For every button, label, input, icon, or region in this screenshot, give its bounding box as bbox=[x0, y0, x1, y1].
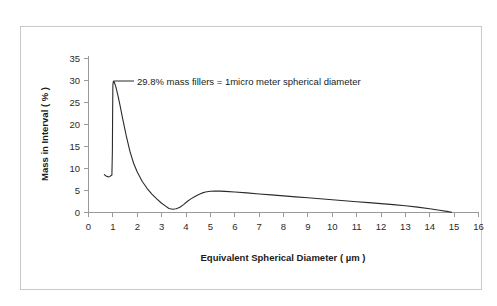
y-tick-label: 10 bbox=[69, 163, 80, 174]
y-axis-title: Mass in Interval ( % ) bbox=[39, 87, 50, 181]
y-axis-tick-labels: 0 5 10 15 20 25 30 35 bbox=[69, 53, 80, 218]
data-series-line bbox=[104, 81, 451, 212]
x-tick-label: 2 bbox=[135, 221, 140, 232]
x-tick-label: 10 bbox=[327, 221, 338, 232]
y-tick-label: 0 bbox=[75, 207, 80, 218]
x-tick-label: 12 bbox=[376, 221, 387, 232]
y-tick-label: 25 bbox=[69, 97, 80, 108]
x-axis-tick-labels: 0 1 2 3 4 5 6 7 8 9 10 11 12 13 14 15 16 bbox=[86, 221, 484, 232]
x-tick-label: 7 bbox=[256, 221, 261, 232]
y-tick-label: 5 bbox=[75, 185, 80, 196]
x-tick-label: 9 bbox=[305, 221, 310, 232]
y-tick-label: 35 bbox=[69, 53, 80, 64]
x-tick-label: 0 bbox=[86, 221, 91, 232]
x-tick-label: 6 bbox=[232, 221, 237, 232]
x-tick-label: 3 bbox=[159, 221, 164, 232]
x-tick-label: 11 bbox=[352, 221, 362, 232]
x-tick-label: 15 bbox=[449, 221, 460, 232]
y-tick-label: 20 bbox=[69, 119, 80, 130]
y-tick-label: 30 bbox=[69, 75, 80, 86]
x-tick-label: 14 bbox=[425, 221, 436, 232]
chart-plot-area: 0 5 10 15 20 25 30 35 bbox=[0, 0, 497, 306]
annotation-label: 29.8% mass fillers = 1micro meter spheri… bbox=[137, 76, 361, 87]
x-tick-label: 13 bbox=[400, 221, 411, 232]
x-tick-label: 5 bbox=[208, 221, 213, 232]
chart-figure: 0 5 10 15 20 25 30 35 bbox=[0, 0, 497, 306]
x-tick-label: 1 bbox=[110, 221, 115, 232]
x-tick-label: 4 bbox=[183, 221, 188, 232]
x-tick-label: 8 bbox=[281, 221, 286, 232]
x-axis-ticks bbox=[89, 213, 479, 218]
y-tick-label: 15 bbox=[69, 141, 80, 152]
y-axis-ticks bbox=[84, 59, 88, 213]
x-axis-title: Equivalent Spherical Diameter ( µm ) bbox=[201, 252, 366, 263]
x-tick-label: 16 bbox=[473, 221, 484, 232]
